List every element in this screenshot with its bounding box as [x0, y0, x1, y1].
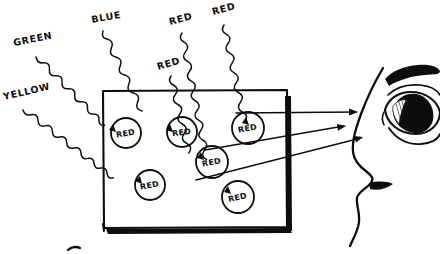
reflected-ray-group	[196, 109, 363, 180]
incoming-wave-group	[22, 24, 249, 194]
light-reflection-diagram: Incoming light wavelengths absorbed by a…	[0, 0, 440, 254]
eye-inner-corner	[383, 112, 385, 125]
wave-label-yellow: YELLOW	[1, 80, 51, 102]
wave-yellow-path	[22, 99, 114, 188]
absorption-dot-2: RED	[167, 117, 197, 147]
ray-line	[236, 112, 356, 113]
reflected-ray-middle	[205, 124, 346, 150]
wave-red-3-path	[221, 24, 247, 122]
upper-eyelid-crease	[388, 85, 440, 95]
dot-label: RED	[115, 128, 135, 140]
ray-line	[196, 138, 361, 180]
wave-label-red-2: RED	[168, 10, 194, 27]
reflected-ray-top	[236, 109, 358, 116]
absorption-dot-5: RED	[222, 181, 254, 213]
wave-blue-path	[100, 30, 144, 113]
absorption-dot-group: RED RED RED RED RED RED	[111, 112, 264, 213]
dot-label: RED	[139, 179, 159, 191]
ray-arrowhead	[354, 136, 363, 143]
dot-label: RED	[237, 122, 257, 134]
cropped-bottom-mark	[68, 247, 80, 250]
wave-label-blue: BLUE	[90, 9, 121, 25]
reflected-ray-bottom	[196, 136, 363, 180]
red-surface-panel	[103, 90, 292, 234]
ray-arrowhead	[349, 109, 358, 116]
surface-right-edge-bar	[285, 96, 292, 231]
wave-label-group: GREEN YELLOW BLUE RED RED RED	[1, 0, 237, 102]
ray-arrowhead	[337, 124, 346, 131]
eyebrow	[385, 65, 440, 86]
dot-label: RED	[172, 127, 192, 139]
wave-label-red-1: RED	[156, 55, 182, 72]
diagram-canvas: Incoming light wavelengths absorbed by a…	[0, 0, 440, 254]
wave-label-green: GREEN	[12, 30, 53, 48]
wave-label-red-3: RED	[211, 0, 237, 17]
human-face-profile	[350, 65, 440, 246]
lips	[369, 182, 393, 190]
cropped-glyph-top	[68, 247, 80, 250]
surface-bottom-shadow	[106, 228, 292, 234]
absorption-dot-6: RED	[135, 170, 165, 200]
absorption-dot-1: RED	[111, 118, 141, 148]
absorption-dot-3: RED	[232, 112, 264, 144]
nose-profile	[350, 68, 383, 246]
ray-line	[205, 126, 344, 150]
surface-corner-nick	[103, 224, 104, 231]
